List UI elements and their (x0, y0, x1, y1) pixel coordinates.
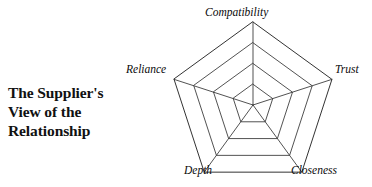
figure-title: The Supplier's View of the Relationship (8, 83, 138, 140)
radar-spoke-trust (253, 79, 332, 105)
axis-label-closeness: Closeness (291, 164, 337, 177)
axis-label-depth: Depth (184, 164, 212, 177)
figure-title-line-1: The Supplier's (8, 83, 138, 102)
radar-spoke-reliance (174, 79, 253, 105)
axis-label-trust: Trust (335, 63, 359, 76)
radar-chart: Compatibility Trust Closeness Depth Reli… (150, 0, 372, 187)
axis-label-reliance: Reliance (126, 63, 166, 76)
radar-grid-svg (150, 0, 372, 187)
axis-label-compatibility: Compatibility (205, 6, 268, 19)
figure-title-line-3: Relationship (8, 121, 138, 140)
figure-title-line-2: View of the (8, 102, 138, 121)
radar-figure: The Supplier's View of the Relationship … (0, 0, 372, 187)
